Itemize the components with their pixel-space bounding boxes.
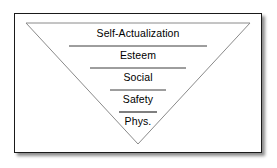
inverted-pyramid-diagram: Self-Actualization Esteem Social Safety …: [15, 14, 261, 152]
figure-root: Self-Actualization Esteem Social Safety …: [0, 0, 277, 168]
diagram-frame: Self-Actualization Esteem Social Safety …: [14, 13, 262, 153]
pyramid-outline: [26, 23, 250, 144]
pyramid-graphic: [15, 14, 261, 152]
